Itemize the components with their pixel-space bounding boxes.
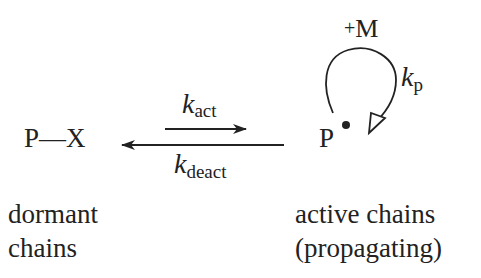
monomer-label: +M (344, 14, 378, 43)
k-act-symbol: k (182, 88, 195, 119)
dormant-caption-line1: dormant (8, 199, 98, 229)
monomer-text: M (355, 14, 378, 43)
k-deact-subscript: deact (186, 161, 227, 182)
k-deact-label: kdeact (174, 148, 227, 182)
dormant-caption-line2: chains (8, 233, 77, 263)
k-p-subscript: p (413, 74, 423, 95)
k-deact-symbol: k (174, 148, 187, 179)
k-act-subscript: act (194, 100, 217, 121)
dormant-species-label: P—X (24, 123, 86, 153)
atrp-equilibrium-diagram: P—X kact kdeact P +M kp dormant chains a… (0, 0, 481, 278)
k-act-label: kact (182, 88, 217, 121)
active-caption-line1: active chains (295, 199, 435, 229)
k-p-symbol: k (401, 61, 414, 92)
active-caption-line2: (propagating) (295, 233, 442, 263)
propagation-loop-arrow (326, 48, 396, 122)
active-species-label: P (319, 123, 334, 153)
k-p-label: kp (401, 61, 423, 95)
radical-dot-icon (342, 121, 350, 129)
